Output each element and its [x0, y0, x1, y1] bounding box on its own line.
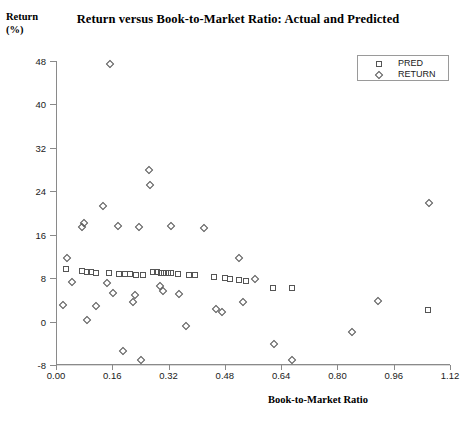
y-tick-label: 0 — [16, 316, 46, 327]
x-tick-label: 1.12 — [428, 370, 472, 381]
data-point-return — [145, 165, 153, 173]
plot-area — [56, 61, 450, 365]
data-point-return — [59, 301, 67, 309]
data-point-pred — [140, 272, 146, 278]
data-point-return — [270, 340, 278, 348]
y-tick-label: 32 — [16, 142, 46, 153]
data-point-return — [235, 253, 243, 261]
data-point-pred — [106, 270, 112, 276]
data-point-return — [146, 181, 154, 189]
y-tick-label: 40 — [16, 99, 46, 110]
data-point-return — [83, 316, 91, 324]
y-tick-label: 24 — [16, 186, 46, 197]
data-point-return — [250, 274, 258, 282]
y-tick-label: 8 — [16, 273, 46, 284]
data-point-return — [288, 356, 296, 364]
legend-label: PRED — [398, 58, 423, 68]
data-point-pred — [211, 274, 217, 280]
y-gridline — [56, 365, 450, 366]
x-tick-label: 0.00 — [34, 370, 78, 381]
data-points-layer — [57, 61, 450, 364]
x-tick-label: 0.48 — [203, 370, 247, 381]
data-point-pred — [289, 285, 295, 291]
chart-title: Return versus Book-to-Market Ratio: Actu… — [0, 12, 476, 27]
data-point-return — [92, 302, 100, 310]
data-point-return — [108, 289, 116, 297]
data-point-return — [425, 198, 433, 206]
y-tick-label: -8 — [16, 360, 46, 371]
data-point-pred — [236, 277, 242, 283]
data-point-pred — [227, 276, 233, 282]
x-tick-label: 0.80 — [315, 370, 359, 381]
data-point-return — [113, 222, 121, 230]
data-point-return — [167, 222, 175, 230]
data-point-pred — [425, 307, 431, 313]
square-marker-icon — [376, 61, 382, 67]
y-tick-label: 48 — [16, 56, 46, 67]
data-point-return — [63, 253, 71, 261]
data-point-return — [134, 222, 142, 230]
chart-legend: PREDRETURN — [357, 55, 449, 81]
data-point-pred — [133, 272, 139, 278]
data-point-pred — [175, 271, 181, 277]
data-point-pred — [63, 266, 69, 272]
data-point-return — [103, 279, 111, 287]
legend-label: RETURN — [398, 69, 436, 79]
data-point-return — [99, 202, 107, 210]
data-point-pred — [270, 285, 276, 291]
data-point-pred — [168, 270, 174, 276]
legend-entry: RETURN — [358, 70, 450, 81]
data-point-return — [119, 347, 127, 355]
diamond-marker-icon — [375, 71, 383, 79]
data-point-return — [200, 224, 208, 232]
data-point-return — [238, 298, 246, 306]
data-point-return — [128, 298, 136, 306]
data-point-return — [159, 286, 167, 294]
data-point-return — [136, 355, 144, 363]
x-tick-label: 0.16 — [90, 370, 134, 381]
chart-figure: Return (%) Return versus Book-to-Market … — [0, 0, 476, 424]
data-point-return — [106, 59, 114, 67]
data-point-pred — [93, 270, 99, 276]
data-point-return — [374, 297, 382, 305]
x-tick-label: 0.96 — [372, 370, 416, 381]
data-point-pred — [243, 278, 249, 284]
data-point-return — [68, 278, 76, 286]
data-point-return — [175, 290, 183, 298]
x-axis-title: Book-to-Market Ratio — [268, 394, 368, 405]
x-tick-label: 0.64 — [259, 370, 303, 381]
y-tick-label: 16 — [16, 229, 46, 240]
data-point-return — [348, 328, 356, 336]
x-tick-label: 0.32 — [147, 370, 191, 381]
data-point-return — [182, 322, 190, 330]
data-point-pred — [192, 272, 198, 278]
